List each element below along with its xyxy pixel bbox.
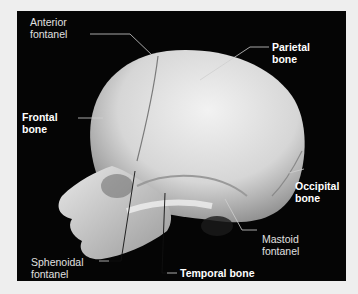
figure-panel: Anterior fontanel Frontal bone Parietal … [17,11,346,281]
label-occipital-bone: Occipital bone [295,180,339,204]
label-parietal-bone: Parietal bone [272,41,310,65]
label-mastoid-fontanel: Mastoid fontanel [262,233,299,257]
label-temporal-bone: Temporal bone (squamous part) [180,267,256,281]
label-sphenoidal-fontanel: Sphenoidal fontanel [31,256,84,280]
label-frontal-bone: Frontal bone [22,111,58,135]
label-anterior-fontanel: Anterior fontanel [30,16,67,40]
